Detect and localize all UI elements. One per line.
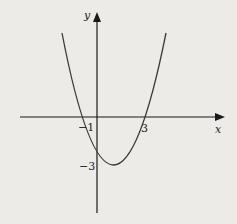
x-axis-arrow-icon bbox=[215, 113, 225, 121]
parabola-curve bbox=[62, 33, 166, 165]
root-right-label: 3 bbox=[141, 122, 148, 135]
y-axis-label: y bbox=[83, 9, 91, 22]
root-left-label: −1 bbox=[78, 121, 94, 134]
parabola-graph: y x −1 3 −3 bbox=[0, 0, 237, 224]
y-mark-label: −3 bbox=[79, 160, 95, 173]
y-axis-arrow-icon bbox=[93, 12, 101, 22]
x-axis-label: x bbox=[215, 123, 222, 136]
